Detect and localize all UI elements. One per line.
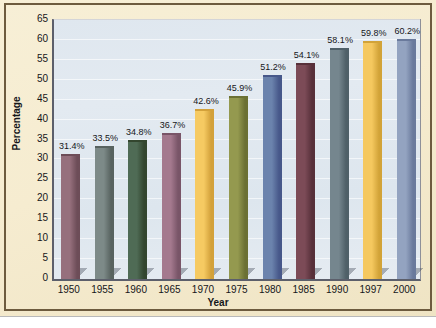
bar-1997[interactable] <box>363 20 379 279</box>
y-tick-label: 65 <box>26 14 48 24</box>
bar-side-face <box>77 154 80 279</box>
bar-1960[interactable] <box>128 20 144 279</box>
bar-value-label: 51.2% <box>251 62 295 72</box>
bar-front-face <box>195 109 211 279</box>
bar-top-face <box>162 133 178 135</box>
y-tick-label: 60 <box>26 34 48 44</box>
page-edge-strip <box>0 316 436 328</box>
bar-side-face <box>178 133 181 279</box>
bar-side-face <box>413 39 416 279</box>
y-tick-label: 55 <box>26 54 48 64</box>
bar-top-face <box>397 39 413 41</box>
bar-value-label: 42.6% <box>184 96 228 106</box>
bar-1955[interactable] <box>95 20 111 279</box>
bar-top-face <box>229 96 245 98</box>
y-tick-label: 25 <box>26 173 48 183</box>
bar-1970[interactable] <box>195 20 211 279</box>
bar-side-face <box>245 96 248 279</box>
bar-front-face <box>61 154 77 279</box>
bar-front-face <box>296 63 312 279</box>
y-tick-label: 10 <box>26 233 48 243</box>
y-tick-label: 50 <box>26 74 48 84</box>
bar-front-face <box>162 133 178 279</box>
bar-top-face <box>263 75 279 77</box>
bar-2000[interactable] <box>397 20 413 279</box>
bar-top-face <box>195 109 211 111</box>
bar-1990[interactable] <box>330 20 346 279</box>
bar-top-face <box>363 41 379 43</box>
bar-side-face <box>211 109 214 279</box>
bar-front-face <box>363 41 379 279</box>
bar-front-face <box>397 39 413 279</box>
bar-top-face <box>61 154 77 156</box>
plot-area: 31.4%33.5%34.8%36.7%42.6%45.9%51.2%54.1%… <box>52 19 421 281</box>
x-axis-title: Year <box>0 297 436 308</box>
bar-side-face <box>279 75 282 279</box>
y-tick-label: 30 <box>26 153 48 163</box>
bar-value-label: 36.7% <box>150 120 194 130</box>
bar-value-label: 54.1% <box>285 50 329 60</box>
bar-side-face <box>346 48 349 280</box>
chart-figure: Percentage 05101520253035404550556065 31… <box>0 0 436 328</box>
bar-front-face <box>95 146 111 279</box>
bar-side-face <box>312 63 315 279</box>
bar-front-face <box>128 140 144 279</box>
y-tick-label: 20 <box>26 193 48 203</box>
y-tick-label: 15 <box>26 213 48 223</box>
bar-front-face <box>330 48 346 280</box>
y-tick-label: 45 <box>26 94 48 104</box>
bar-top-face <box>128 140 144 142</box>
bar-value-label: 60.2% <box>385 26 429 36</box>
bar-1975[interactable] <box>229 20 245 279</box>
bar-side-face <box>379 41 382 279</box>
bar-top-face <box>330 48 346 50</box>
y-tick-label: 0 <box>26 273 48 283</box>
y-axis-title: Percentage <box>11 84 22 164</box>
y-axis-ticks: 05101520253035404550556065 <box>22 0 48 328</box>
bar-1965[interactable] <box>162 20 178 279</box>
x-axis-ticks: 1950195519601965197019751980198519901997… <box>52 284 421 298</box>
bar-side-face <box>111 146 114 279</box>
y-tick-label: 40 <box>26 114 48 124</box>
y-tick-label: 35 <box>26 134 48 144</box>
y-tick-label: 5 <box>26 253 48 263</box>
bar-top-face <box>296 63 312 65</box>
bar-value-label: 45.9% <box>218 83 262 93</box>
x-tick-label: 2000 <box>384 284 424 295</box>
bar-front-face <box>229 96 245 279</box>
bar-front-face <box>263 75 279 279</box>
bar-side-face <box>144 140 147 279</box>
bar-1980[interactable] <box>263 20 279 279</box>
bar-top-face <box>95 146 111 148</box>
